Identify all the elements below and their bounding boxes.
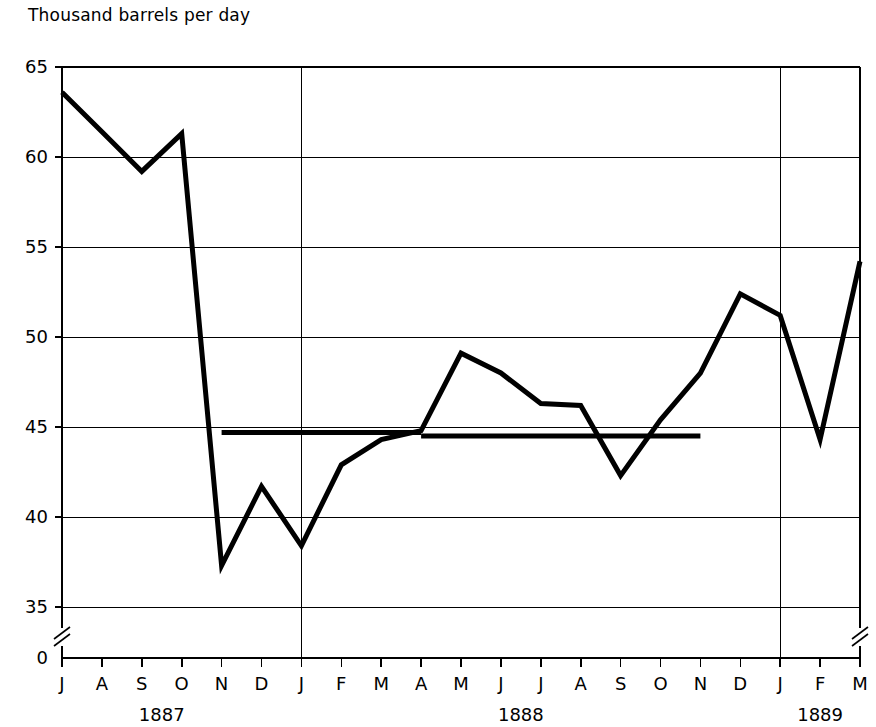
y-axis-tick-label: 35 (25, 596, 48, 617)
x-axis-tick-label: M (373, 673, 389, 694)
x-axis-tick-label: J (298, 673, 304, 694)
y-axis-tick-label: 65 (25, 56, 48, 77)
y-axis-tick-label: 40 (25, 506, 48, 527)
y-axis-ticks (55, 67, 62, 607)
chart-figure: Thousand barrels per day 354045505560650… (0, 0, 876, 727)
axis-break-mark (852, 634, 868, 646)
axis-break-mark (54, 627, 70, 639)
x-axis-year-labels: 188718881889 (139, 704, 843, 725)
x-axis-tick-label: J (58, 673, 64, 694)
y-axis-origin-label: 0 (37, 647, 48, 668)
line-chart: 354045505560650 JASONDJFMAMJJASONDJFM 18… (0, 0, 876, 727)
axis-break-marks (54, 627, 868, 646)
y-axis-tick-label: 60 (25, 146, 48, 167)
y-axis-tick-labels: 354045505560650 (25, 56, 48, 668)
reference-lines (222, 432, 701, 436)
x-axis-ticks (62, 658, 860, 667)
axis-break-mark (54, 634, 70, 646)
x-axis-tick-label: F (815, 673, 825, 694)
x-axis-tick-label: D (255, 673, 269, 694)
y-axis-tick-label: 50 (25, 326, 48, 347)
x-axis-tick-label: S (615, 673, 626, 694)
y-axis-tick-label: 45 (25, 416, 48, 437)
x-axis-year-label: 1888 (498, 704, 544, 725)
x-axis-tick-label: A (96, 673, 109, 694)
x-axis-tick-label: N (694, 673, 707, 694)
x-axis-tick-label: M (852, 673, 868, 694)
x-axis-tick-label: O (175, 673, 189, 694)
x-axis-year-label: 1889 (797, 704, 843, 725)
x-axis-tick-label: S (136, 673, 147, 694)
x-axis-tick-label: J (777, 673, 783, 694)
x-axis-tick-label: O (653, 673, 667, 694)
data-series-line (62, 92, 860, 565)
x-axis-tick-label: D (733, 673, 747, 694)
x-axis-tick-labels: JASONDJFMAMJJASONDJFM (58, 673, 867, 694)
y-axis-tick-label: 55 (25, 236, 48, 257)
x-axis-year-label: 1887 (139, 704, 185, 725)
x-axis-tick-label: J (537, 673, 543, 694)
x-axis-tick-label: M (453, 673, 469, 694)
data-series-polyline (62, 92, 860, 565)
axis-break-mark (852, 627, 868, 639)
x-axis-tick-label: N (215, 673, 228, 694)
x-axis-tick-label: A (575, 673, 588, 694)
x-axis-tick-label: A (415, 673, 428, 694)
x-axis-tick-label: J (497, 673, 503, 694)
x-axis-tick-label: F (336, 673, 346, 694)
